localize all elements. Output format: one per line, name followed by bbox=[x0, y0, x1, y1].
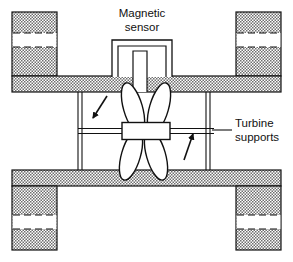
bolt-hole-bottom-right bbox=[237, 215, 281, 229]
turbine-supports-label: Turbine supports bbox=[235, 117, 279, 143]
rotation-arrow-left bbox=[93, 96, 107, 118]
bolt-hole-bottom-left bbox=[13, 215, 57, 229]
magnetic-sensor-label: Magnetic sensor bbox=[119, 7, 166, 33]
turbine-supports-label-line1: Turbine bbox=[235, 117, 274, 129]
pipe-wall-bottom bbox=[12, 170, 281, 186]
bolt-hole-top-right bbox=[237, 33, 281, 47]
turbine-rotor-hub bbox=[122, 123, 170, 140]
rotation-arrow-right bbox=[184, 134, 193, 160]
magnetic-sensor-label-line1: Magnetic bbox=[119, 7, 166, 19]
turbine-supports-label-line2: supports bbox=[235, 131, 279, 143]
bolt-hole-top-left bbox=[13, 33, 57, 47]
magnetic-sensor-stem bbox=[133, 51, 147, 92]
turbine-flowmeter-figure: Magnetic sensor Turbine supports bbox=[0, 0, 293, 262]
figure-canvas: Magnetic sensor Turbine supports bbox=[0, 0, 293, 262]
magnetic-sensor-label-line2: sensor bbox=[125, 21, 160, 33]
